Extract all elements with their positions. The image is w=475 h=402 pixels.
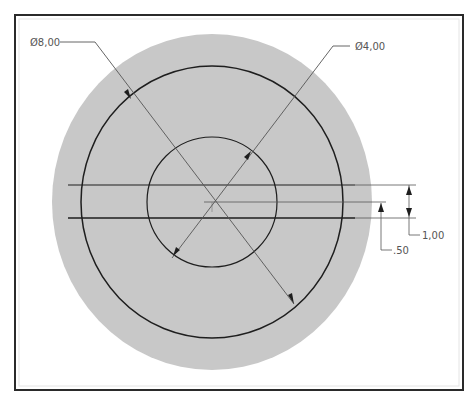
slot-width-label: 1,00	[422, 230, 444, 241]
offset-label: .50	[393, 245, 409, 256]
inner-diameter-label: Ø4,00	[355, 41, 385, 52]
cad-drawing-canvas: Ø8,00 Ø4,00 1,00 .50	[0, 0, 475, 402]
outer-diameter-label: Ø8,00	[30, 37, 60, 48]
